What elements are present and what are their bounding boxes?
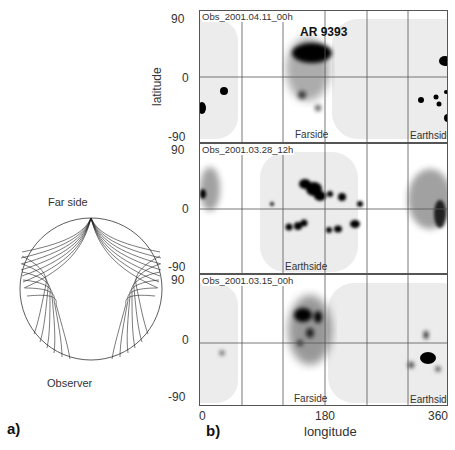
y-tick-minus90: -90 bbox=[168, 390, 185, 404]
y-tick-minus90: -90 bbox=[168, 130, 185, 144]
y-tick-minus90: -90 bbox=[168, 260, 185, 274]
earthside-label: Earthside bbox=[285, 261, 327, 272]
y-tick-0: 0 bbox=[182, 71, 189, 85]
map-2-heatmap bbox=[200, 144, 448, 274]
map-1-title: Obs_2001.04.11_00h bbox=[202, 11, 294, 22]
earthside-label: Earthside bbox=[410, 394, 448, 405]
map-2-title: Obs_2001.03.28_12h bbox=[202, 144, 294, 155]
x-tick-0: 0 bbox=[199, 409, 206, 423]
x-tick-360: 360 bbox=[428, 409, 448, 423]
y-tick-0: 0 bbox=[182, 202, 189, 216]
y-tick-90: 90 bbox=[171, 12, 184, 26]
farside-label: Farside bbox=[294, 393, 327, 404]
map-panel-2: Obs_2001.03.28_12h Earthside bbox=[199, 143, 448, 274]
map-3-title: Obs_2001.03.15_00h bbox=[202, 275, 294, 286]
far-side-label: Far side bbox=[48, 196, 88, 208]
farside-label: Farside bbox=[295, 129, 328, 140]
wave-path-diagram bbox=[18, 214, 163, 364]
panel-a-letter: a) bbox=[7, 420, 20, 437]
map-panel-1: Obs_2001.04.11_00h AR 9393 Farside Earth… bbox=[199, 10, 448, 143]
y-axis-label-wrap: latitude bbox=[150, 40, 164, 120]
ar-9393-label: AR 9393 bbox=[300, 25, 347, 39]
observer-label: Observer bbox=[47, 377, 92, 389]
map-panel-3: Obs_2001.03.15_00h Farside Earthside bbox=[199, 274, 448, 406]
y-tick-0: 0 bbox=[182, 333, 189, 347]
earthside-label: Earthside bbox=[410, 130, 448, 141]
y-tick-90: 90 bbox=[171, 143, 184, 157]
y-tick-90: 90 bbox=[171, 273, 184, 287]
map-3-heatmap bbox=[200, 275, 448, 406]
y-axis-label: latitude bbox=[150, 67, 164, 106]
x-tick-180: 180 bbox=[315, 409, 335, 423]
x-axis-label: longitude bbox=[304, 424, 357, 439]
panel-b-letter: b) bbox=[206, 422, 220, 439]
